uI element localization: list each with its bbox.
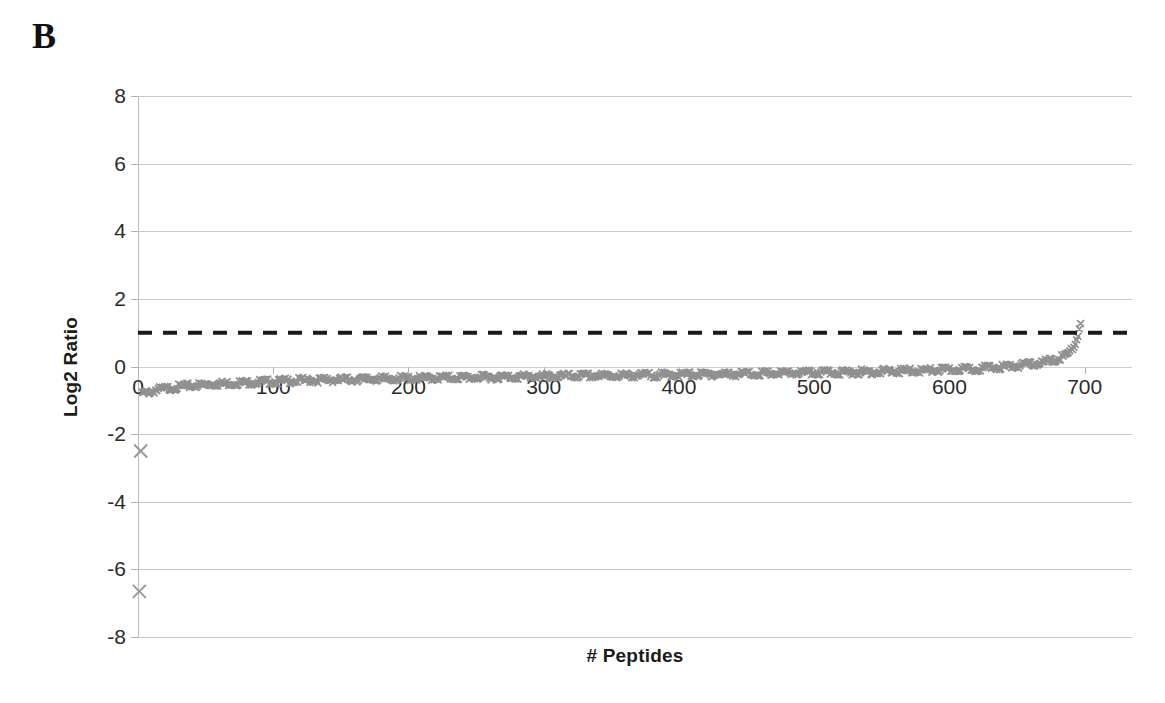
y-tick--8	[131, 637, 138, 638]
y-tick-0	[131, 367, 138, 368]
y-tick-label: -6	[107, 557, 126, 581]
y-tick-4	[131, 231, 138, 232]
x-axis-title: # Peptides	[138, 645, 1132, 667]
y-tick-2	[131, 299, 138, 300]
y-tick-label: 0	[114, 355, 126, 379]
panel-label: B	[32, 18, 56, 54]
y-tick-label: 2	[114, 287, 126, 311]
y-tick-label: -4	[107, 490, 126, 514]
outlier-points-layer	[133, 445, 147, 598]
y-tick-label: -2	[107, 422, 126, 446]
gridline-y--8	[138, 637, 1132, 638]
y-tick-8	[131, 96, 138, 97]
y-tick--6	[131, 569, 138, 570]
outlier-marker	[133, 585, 146, 598]
plot-area: -8-6-4-202468 0100200300400500600700	[138, 96, 1132, 637]
y-tick-label: 4	[114, 219, 126, 243]
outlier-marker	[134, 445, 147, 458]
y-tick--4	[131, 502, 138, 503]
y-tick-label: 8	[114, 84, 126, 108]
scatter-plot-canvas	[138, 96, 1132, 637]
y-axis-title: Log2 Ratio	[58, 96, 84, 637]
y-tick--2	[131, 434, 138, 435]
y-tick-label: -8	[107, 625, 126, 649]
y-tick-6	[131, 164, 138, 165]
y-tick-label: 6	[114, 152, 126, 176]
y-axis-title-text: Log2 Ratio	[60, 316, 82, 416]
